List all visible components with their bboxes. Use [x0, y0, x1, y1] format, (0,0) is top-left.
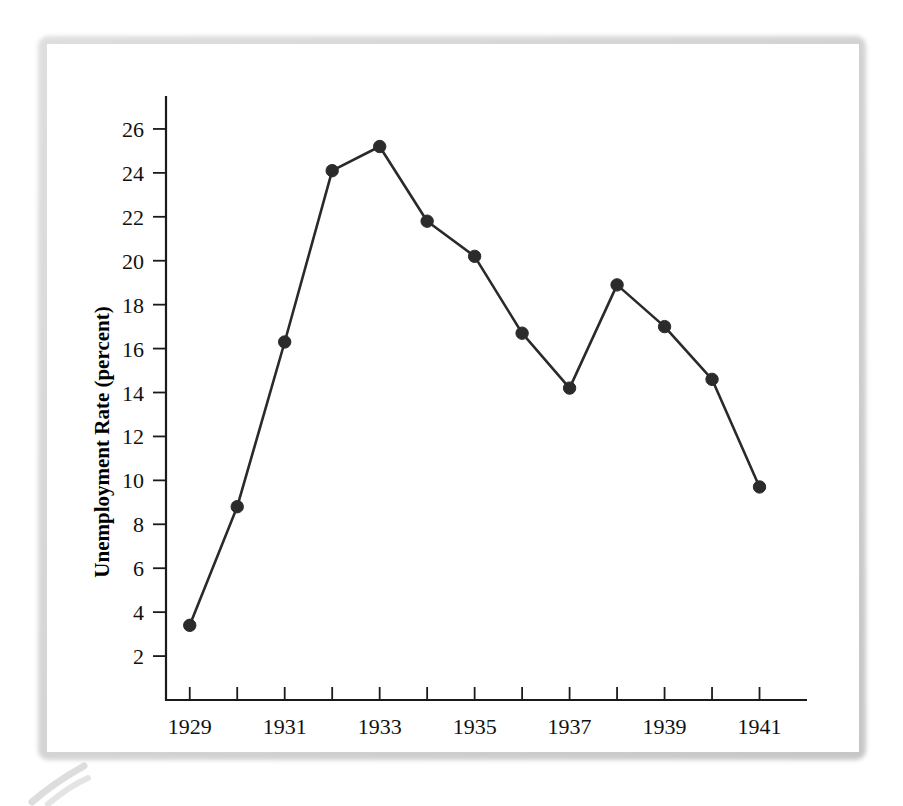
x-tick-label: 1941	[738, 714, 782, 739]
x-tick-label: 1939	[643, 714, 687, 739]
data-point: 1940: 14.6	[706, 373, 718, 385]
data-point: 1941: 9.7	[753, 481, 765, 493]
y-tick-label: 8	[133, 512, 144, 537]
data-point: 1931: 16.3	[279, 336, 291, 348]
y-tick-label: 20	[122, 249, 144, 274]
y-axis-ticks	[153, 129, 166, 656]
y-tick-label: 12	[122, 424, 144, 449]
y-tick-label: 24	[122, 161, 144, 186]
x-axis-tick-labels: 1929193119331935193719391941	[168, 714, 782, 739]
y-tick-label: 14	[122, 381, 144, 406]
data-series-line	[190, 147, 760, 626]
y-tick-label: 6	[133, 556, 144, 581]
y-tick-label: 22	[122, 205, 144, 230]
y-axis-title-text: Unemployment Rate (percent)	[90, 306, 114, 577]
data-point: 1929: 3.4	[184, 619, 196, 631]
data-point: 1932: 24.1	[326, 164, 338, 176]
decorative-swoosh-icon	[22, 758, 142, 806]
x-tick-label: 1937	[548, 714, 592, 739]
chart-plot-area: Unemployment Rate (percent) 246810121416…	[47, 44, 859, 752]
y-tick-label: 4	[133, 600, 144, 625]
data-point: 1935: 20.2	[468, 250, 480, 262]
series-path	[190, 147, 760, 626]
y-tick-label: 26	[122, 117, 144, 142]
y-tick-label: 18	[122, 293, 144, 318]
data-point: 1930: 8.8	[231, 501, 243, 513]
y-tick-label: 10	[122, 468, 144, 493]
data-point: 1934: 21.8	[421, 215, 433, 227]
data-point: 1933: 25.2	[373, 140, 385, 152]
chart-axes	[166, 96, 807, 700]
data-point: 1937: 14.2	[563, 382, 575, 394]
data-point: 1936: 16.7	[516, 327, 528, 339]
y-tick-label: 16	[122, 337, 144, 362]
x-tick-label: 1935	[453, 714, 497, 739]
x-tick-label: 1931	[263, 714, 307, 739]
figure-page: Unemployment Rate (percent) 246810121416…	[0, 0, 903, 806]
y-axis-tick-labels: 2468101214161820222426	[122, 117, 144, 669]
y-tick-label: 2	[133, 644, 144, 669]
x-tick-label: 1929	[168, 714, 212, 739]
data-point: 1938: 18.9	[611, 279, 623, 291]
unemployment-line-chart: Unemployment Rate (percent) 246810121416…	[47, 44, 859, 752]
data-point: 1939: 17	[658, 320, 670, 332]
x-tick-label: 1933	[358, 714, 402, 739]
x-axis-ticks	[190, 687, 760, 700]
y-axis-title: Unemployment Rate (percent)	[90, 306, 114, 577]
